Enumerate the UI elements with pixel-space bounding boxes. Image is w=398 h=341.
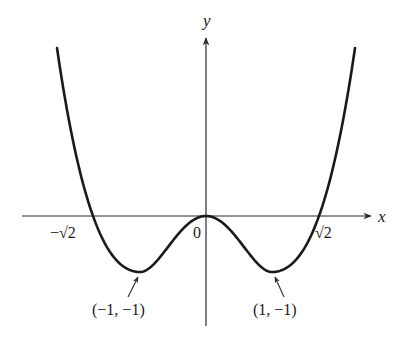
right-min-pointer-arrow	[275, 277, 284, 297]
x-axis-label: x	[377, 207, 386, 226]
left-min-label: (−1, −1)	[92, 301, 145, 319]
pos-root-label: √2	[315, 224, 332, 241]
neg-root-label: −√2	[50, 224, 76, 241]
origin-label: 0	[193, 224, 201, 241]
function-graph: y x 0 −√2 √2 (−1, −1) (1, −1)	[0, 0, 398, 341]
right-min-label: (1, −1)	[253, 301, 297, 319]
y-axis-label: y	[201, 11, 211, 30]
left-min-pointer-arrow	[128, 277, 138, 297]
